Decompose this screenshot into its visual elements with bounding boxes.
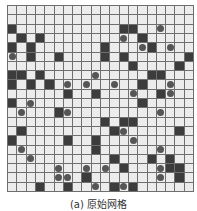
circle-marker-icon — [130, 90, 137, 97]
grid-cell — [129, 80, 137, 88]
grid-cell — [73, 25, 81, 33]
grid-cell — [166, 25, 174, 33]
grid-cell — [148, 127, 156, 135]
grid-cell — [17, 99, 25, 107]
grid-cell — [36, 155, 44, 163]
obstacle-cell — [92, 90, 100, 98]
grid-cell — [120, 155, 128, 163]
grid-cell — [138, 127, 146, 135]
obstacle-cell — [82, 173, 90, 181]
grid-cell — [148, 80, 156, 88]
grid-cell — [92, 53, 100, 61]
grid-cell — [157, 80, 165, 88]
grid-cell — [157, 118, 165, 126]
grid-cell — [64, 108, 72, 116]
grid-cell — [101, 136, 109, 144]
grid-cell — [129, 99, 137, 107]
grid-cell — [64, 15, 72, 23]
grid-cell — [148, 62, 156, 70]
obstacle-cell — [175, 173, 183, 181]
grid-cell — [27, 164, 35, 172]
grid-cell — [27, 90, 35, 98]
grid-cell — [64, 34, 72, 42]
grid-cell — [17, 173, 25, 181]
grid-cell — [17, 25, 25, 33]
grid-cell — [55, 71, 63, 79]
grid-cell — [82, 62, 90, 70]
obstacle-cell — [64, 90, 72, 98]
obstacle-cell — [110, 127, 118, 135]
grid-cell — [17, 183, 25, 191]
grid-cell — [27, 99, 35, 107]
grid-cell — [175, 155, 183, 163]
obstacle-cell — [120, 53, 128, 61]
grid-cell — [138, 25, 146, 33]
grid-cell — [185, 118, 193, 126]
grid-cell — [73, 53, 81, 61]
obstacle-cell — [138, 34, 146, 42]
grid-cell — [110, 6, 118, 14]
grid-cell — [64, 71, 72, 79]
obstacle-cell — [45, 80, 53, 88]
grid-cell — [27, 173, 35, 181]
obstacle-cell — [148, 43, 156, 51]
grid-cell — [157, 15, 165, 23]
grid-cell — [8, 6, 16, 14]
grid-cell — [45, 164, 53, 172]
circle-marker-icon — [130, 137, 137, 144]
grid-cell — [101, 173, 109, 181]
grid-cell — [148, 53, 156, 61]
grid-cell — [92, 173, 100, 181]
obstacle-cell — [175, 62, 183, 70]
grid-cell — [129, 43, 137, 51]
grid-cell — [92, 6, 100, 14]
grid-cell — [185, 34, 193, 42]
circle-marker-icon — [83, 165, 90, 172]
grid-cell — [55, 99, 63, 107]
grid-cell — [73, 108, 81, 116]
grid-cell — [82, 80, 90, 88]
grid-cell — [185, 99, 193, 107]
grid-cell — [27, 155, 35, 163]
circle-marker-icon — [27, 155, 34, 162]
grid-cell — [45, 108, 53, 116]
grid-cell — [36, 25, 44, 33]
grid-cell — [138, 62, 146, 70]
grid-cell — [185, 183, 193, 191]
occupancy-grid — [7, 5, 194, 192]
grid-cell — [101, 25, 109, 33]
grid-cell — [148, 99, 156, 107]
grid-cell — [166, 173, 174, 181]
grid-cell — [175, 90, 183, 98]
circle-marker-icon — [92, 72, 99, 79]
grid-cell — [175, 146, 183, 154]
grid-cell — [73, 99, 81, 107]
grid-cell — [185, 146, 193, 154]
grid-cell — [27, 15, 35, 23]
grid-cell — [36, 6, 44, 14]
grid-cell — [27, 118, 35, 126]
grid-cell — [36, 118, 44, 126]
grid-cell — [101, 108, 109, 116]
grid-cell — [17, 146, 25, 154]
grid-cell — [8, 164, 16, 172]
grid-cell — [92, 71, 100, 79]
grid-cell — [120, 146, 128, 154]
grid-cell — [166, 146, 174, 154]
grid-cell — [8, 90, 16, 98]
obstacle-cell — [129, 62, 137, 70]
grid-cell — [64, 62, 72, 70]
grid-cell — [82, 25, 90, 33]
grid-cell — [110, 118, 118, 126]
grid-cell — [82, 127, 90, 135]
grid-cell — [36, 127, 44, 135]
grid-cell — [110, 146, 118, 154]
grid-cell — [82, 118, 90, 126]
grid-cell — [185, 136, 193, 144]
obstacle-cell — [17, 127, 25, 135]
grid-cell — [138, 6, 146, 14]
grid-cell — [120, 62, 128, 70]
obstacle-cell — [36, 34, 44, 42]
obstacle-cell — [17, 34, 25, 42]
grid-cell — [120, 127, 128, 135]
